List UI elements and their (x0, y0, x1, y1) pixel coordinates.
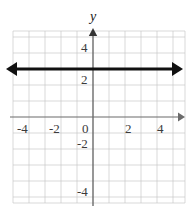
y-axis-name-label: y (90, 10, 96, 24)
y-tick-label-4: 4 (81, 41, 88, 54)
x-tick-label--2: -2 (49, 122, 60, 135)
x-tick-label-4: 4 (157, 122, 164, 135)
y-tick-label--4: -4 (77, 185, 88, 198)
y-tick-label-2: 2 (81, 73, 88, 86)
x-tick-label-2: 2 (125, 122, 132, 135)
x-tick-label-0: 0 (82, 122, 89, 135)
plotted-line-y-equals-3 (6, 62, 183, 76)
plot-canvas (0, 0, 186, 207)
x-tick-label--4: -4 (17, 122, 28, 135)
coordinate-plane-graph: y -4 -2 0 2 4 4 2 0 -2 -4 (0, 0, 186, 207)
y-tick-label--2: -2 (77, 137, 88, 150)
